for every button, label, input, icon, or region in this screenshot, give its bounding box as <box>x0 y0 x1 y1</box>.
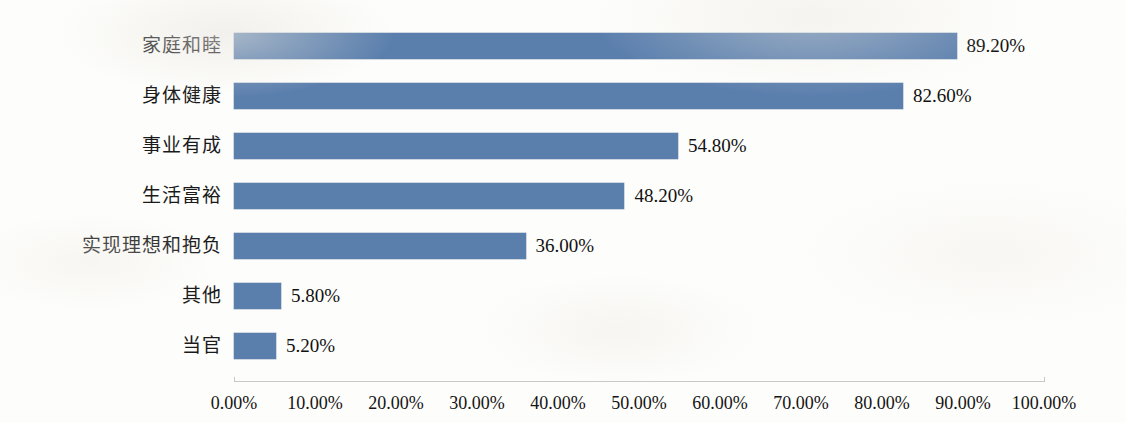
bar-row: 当官5.20% <box>0 333 1126 359</box>
x-axis-line <box>234 381 1044 382</box>
bar-6 <box>234 283 281 309</box>
x-axis-end-cap <box>1044 377 1045 382</box>
x-axis-start-cap <box>234 377 235 382</box>
x-tick-label: 30.00% <box>449 392 505 414</box>
bar-value-label: 54.80% <box>688 133 747 159</box>
x-tick-label: 90.00% <box>935 392 991 414</box>
bar-5 <box>234 233 526 259</box>
x-tick-label: 50.00% <box>611 392 667 414</box>
bar-3 <box>234 133 678 159</box>
category-label: 生活富裕 <box>0 183 222 209</box>
x-tick-label: 70.00% <box>773 392 829 414</box>
category-label: 其他 <box>0 283 222 309</box>
bar-4 <box>234 183 624 209</box>
x-tick-label: 10.00% <box>287 392 343 414</box>
bar-2 <box>234 83 903 109</box>
bar-value-label: 82.60% <box>913 83 972 109</box>
x-tick-label: 80.00% <box>854 392 910 414</box>
x-tick-label: 40.00% <box>530 392 586 414</box>
category-label: 家庭和睦 <box>0 33 222 59</box>
x-tick-label: 20.00% <box>368 392 424 414</box>
bar-value-label: 5.20% <box>286 333 335 359</box>
bar-row: 其他5.80% <box>0 283 1126 309</box>
bar-value-label: 5.80% <box>291 283 340 309</box>
category-label: 身体健康 <box>0 83 222 109</box>
bar-row: 实现理想和抱负36.00% <box>0 233 1126 259</box>
bar-value-label: 36.00% <box>536 233 595 259</box>
category-label: 事业有成 <box>0 133 222 159</box>
bar-row: 事业有成54.80% <box>0 133 1126 159</box>
bar-1 <box>234 33 957 59</box>
x-tick-label: 60.00% <box>692 392 748 414</box>
x-tick-label: 0.00% <box>211 392 258 414</box>
bar-row: 身体健康82.60% <box>0 83 1126 109</box>
x-tick-label: 100.00% <box>1012 392 1077 414</box>
category-label: 实现理想和抱负 <box>0 233 222 259</box>
bar-7 <box>234 333 276 359</box>
bar-value-label: 89.20% <box>967 33 1026 59</box>
bar-row: 生活富裕48.20% <box>0 183 1126 209</box>
bar-row: 家庭和睦89.20% <box>0 33 1126 59</box>
bar-value-label: 48.20% <box>634 183 693 209</box>
horizontal-bar-chart: 家庭和睦89.20%身体健康82.60%事业有成54.80%生活富裕48.20%… <box>0 0 1126 423</box>
category-label: 当官 <box>0 333 222 359</box>
